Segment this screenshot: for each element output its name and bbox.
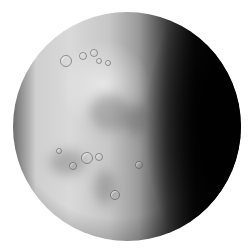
limb-darkening [13, 12, 241, 241]
planet-sphere [13, 12, 241, 241]
image-scene [0, 0, 252, 251]
